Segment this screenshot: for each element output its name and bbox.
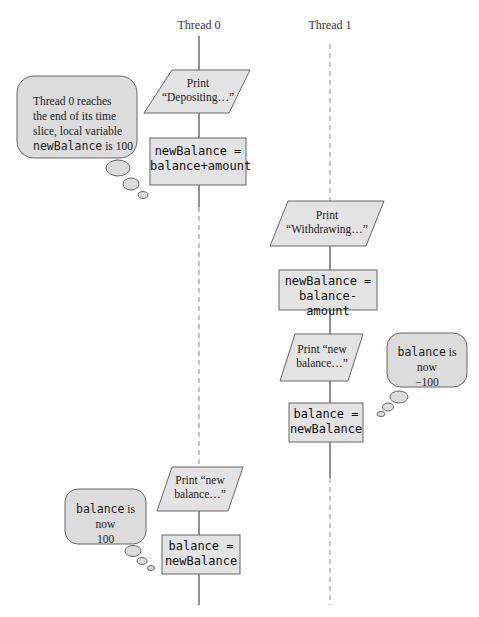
bubble-line: Thread 0 reaches bbox=[33, 94, 137, 109]
thread0-print-depositing-label: Print “Depositing…” bbox=[150, 76, 246, 105]
thread-race-diagram: Thread 0 Thread 1 Print “Depositing…” ne… bbox=[0, 0, 479, 617]
bubble-line: the end of its time bbox=[33, 109, 137, 124]
variable-name: balance bbox=[397, 345, 445, 359]
thread0-assign-balance-label: balance = newBalance bbox=[162, 539, 240, 569]
thought-bubble-2-text: balance is now −100 bbox=[387, 345, 467, 390]
bubble-line: balance is now bbox=[387, 345, 467, 375]
thought-bubble-1-text: Thread 0 reaches the end of its time sli… bbox=[33, 94, 137, 154]
thought-bubble-3-text: balance is now 100 bbox=[65, 502, 146, 547]
bubble-line: slice, local variable bbox=[33, 124, 137, 139]
print-message-line: balance…” bbox=[282, 356, 362, 370]
thread1-print-withdrawing-label: Print “Withdrawing…” bbox=[278, 208, 376, 237]
thread0-print-newbalance-label: Print “new balance…” bbox=[158, 473, 242, 502]
print-message-line: balance…” bbox=[158, 487, 242, 501]
code-line: balance = bbox=[289, 407, 363, 422]
code-line: newBalance bbox=[289, 422, 363, 437]
thread0-title: Thread 0 bbox=[159, 18, 239, 33]
thread1-print-newbalance-label: Print “new balance…” bbox=[282, 342, 362, 371]
print-message: “Depositing…” bbox=[150, 90, 246, 104]
code-line: balance-amount bbox=[279, 289, 377, 319]
thread1-title: Thread 1 bbox=[290, 18, 370, 33]
code-line: balance = bbox=[162, 539, 240, 554]
code-line: newBalance = bbox=[279, 274, 377, 289]
print-keyword: Print bbox=[278, 208, 376, 222]
code-line: balance+amount bbox=[150, 159, 246, 174]
thread1-assign-newbalance-label: newBalance = balance-amount bbox=[279, 274, 377, 319]
bubble-line: balance is now bbox=[65, 502, 146, 532]
bubble-value: −100 bbox=[387, 375, 467, 390]
thread1-assign-balance-label: balance = newBalance bbox=[289, 407, 363, 437]
variable-name: balance bbox=[76, 502, 124, 516]
print-message-line: Print “new bbox=[158, 473, 242, 487]
code-line: newBalance bbox=[162, 554, 240, 569]
bubble-suffix: is 100 bbox=[102, 140, 133, 152]
print-message: “Withdrawing…” bbox=[278, 222, 376, 236]
thread0-assign-newbalance-label: newBalance = balance+amount bbox=[150, 144, 246, 174]
bubble-value: 100 bbox=[65, 532, 146, 547]
code-line: newBalance = bbox=[150, 144, 246, 159]
bubble-line: newBalance is 100 bbox=[33, 139, 137, 154]
print-message-line: Print “new bbox=[282, 342, 362, 356]
variable-name: newBalance bbox=[33, 139, 102, 153]
print-keyword: Print bbox=[150, 76, 246, 90]
